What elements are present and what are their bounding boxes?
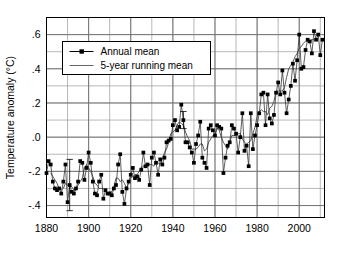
y-tick-label: -.4 bbox=[28, 199, 40, 211]
x-axis-tick-labels: 1880190019201940196019802000 bbox=[35, 222, 311, 234]
x-tick-label: 1980 bbox=[245, 222, 269, 234]
legend-sample-marker-annual bbox=[80, 49, 84, 53]
x-tick-label: 1940 bbox=[161, 222, 185, 234]
legend-entry-label: Annual mean bbox=[101, 46, 160, 57]
y-axis-title: Temperature anomaly (°C) bbox=[4, 56, 16, 179]
y-tick-label: .6 bbox=[32, 28, 41, 40]
x-tick-label: 2000 bbox=[288, 222, 312, 234]
x-tick-label: 1880 bbox=[35, 222, 59, 234]
chart-legend: Annual mean5-year running mean bbox=[63, 42, 211, 75]
legend-entry-label: 5-year running mean bbox=[101, 60, 193, 71]
y-tick-label: .4 bbox=[32, 63, 41, 75]
x-tick-label: 1900 bbox=[77, 222, 101, 234]
x-tick-label: 1960 bbox=[203, 222, 227, 234]
y-axis-tick-labels: -.4-.2.0.2.4.6 bbox=[28, 28, 40, 211]
y-axis-title-text: Temperature anomaly (°C) bbox=[4, 56, 16, 179]
chart-canvas: 1880190019201940196019802000 -.4-.2.0.2.… bbox=[0, 0, 340, 255]
y-tick-label: -.2 bbox=[28, 165, 40, 177]
y-tick-label: .0 bbox=[32, 131, 41, 143]
x-tick-label: 1920 bbox=[119, 222, 143, 234]
y-tick-label: .2 bbox=[32, 97, 41, 109]
temperature-anomaly-figure: 1880190019201940196019802000 -.4-.2.0.2.… bbox=[0, 0, 340, 255]
